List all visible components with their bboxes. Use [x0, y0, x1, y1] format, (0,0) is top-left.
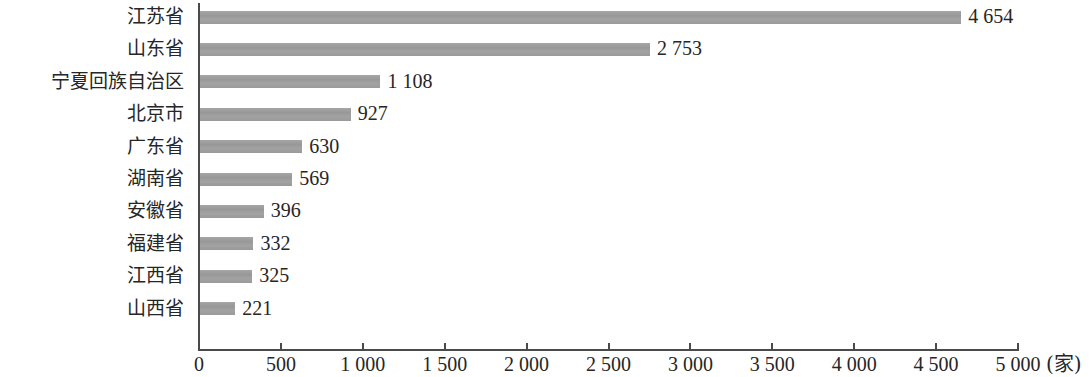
category-label: 福建省	[0, 234, 190, 253]
x-axis-tick	[526, 343, 528, 350]
bar-value-label: 630	[309, 136, 339, 156]
bar-value-label: 332	[260, 233, 290, 253]
bar-value-label: 396	[271, 200, 301, 220]
bar	[199, 270, 252, 283]
x-axis-tick-label: 1 000	[340, 354, 385, 375]
bar-value-label: 2 753	[657, 38, 702, 58]
bar-value-label: 1 108	[387, 71, 432, 91]
x-axis-tick-label: 3 500	[750, 354, 795, 375]
x-axis-tick	[362, 343, 364, 350]
bar-value-label: 927	[358, 103, 388, 123]
bar-value-label: 569	[299, 168, 329, 188]
x-axis-tick-label: 2 000	[504, 354, 549, 375]
x-axis-tick-label: 0	[194, 354, 204, 375]
category-label: 广东省	[0, 137, 190, 156]
bar	[199, 237, 253, 250]
category-label: 江西省	[0, 266, 190, 285]
bar-value-label: 221	[242, 298, 272, 318]
x-axis-tick-label: 4 000	[832, 354, 877, 375]
x-axis-tick	[853, 343, 855, 350]
bar	[199, 75, 380, 88]
bar	[199, 302, 235, 315]
bar	[199, 43, 650, 56]
x-axis-tick-label: 1 500	[422, 354, 467, 375]
category-label: 北京市	[0, 104, 190, 123]
x-axis-tick-label: 3 000	[668, 354, 713, 375]
bar-value-label: 4 654	[968, 6, 1013, 26]
category-label: 江苏省	[0, 7, 190, 26]
x-axis-tick	[280, 343, 282, 350]
category-label: 安徽省	[0, 201, 190, 220]
x-axis-tick-label: 2 500	[586, 354, 631, 375]
bar-chart: 江苏省山东省宁夏回族自治区北京市广东省湖南省安徽省福建省江西省山西省 4 654…	[0, 0, 1092, 377]
x-axis-tick	[444, 343, 446, 350]
x-axis-tick	[689, 343, 691, 350]
y-axis-line	[198, 3, 200, 351]
bar	[199, 140, 302, 153]
x-axis-tick-label: 4 500	[914, 354, 959, 375]
category-label: 湖南省	[0, 169, 190, 188]
x-axis-tick	[608, 343, 610, 350]
x-axis-tick	[935, 343, 937, 350]
category-label: 山东省	[0, 39, 190, 58]
category-label: 山西省	[0, 299, 190, 318]
axis-unit-label: (家)	[1046, 354, 1082, 375]
bar	[199, 205, 264, 218]
bar	[199, 11, 961, 24]
category-label: 宁夏回族自治区	[0, 72, 190, 91]
bar	[199, 108, 351, 121]
bar	[199, 173, 292, 186]
x-axis-tick	[1017, 343, 1019, 350]
x-axis-tick	[771, 343, 773, 350]
x-axis-tick-label: 5 000	[996, 354, 1041, 375]
bar-value-label: 325	[259, 265, 289, 285]
x-axis-tick-label: 500	[266, 354, 296, 375]
